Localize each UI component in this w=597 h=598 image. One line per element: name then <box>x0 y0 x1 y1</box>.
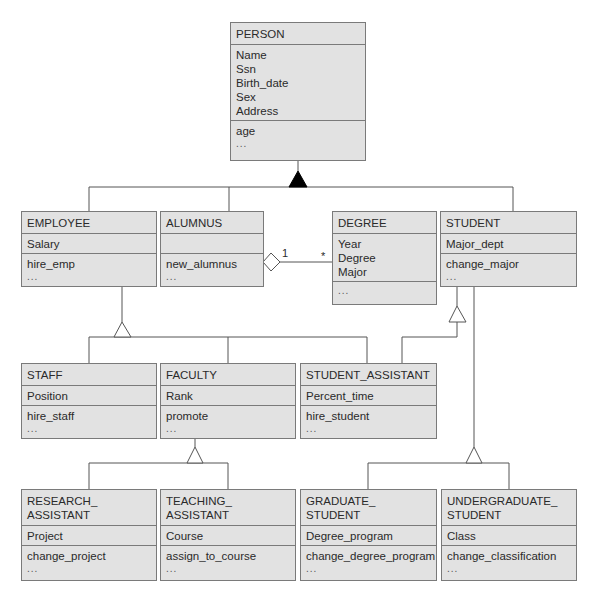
uml-diagram-canvas: 1 * PERSON Name Ssn Birth_date Sex Addre… <box>0 0 597 598</box>
attribute: Degree <box>338 251 431 265</box>
attribute: Name <box>236 48 360 62</box>
class-name: EMPLOYEE <box>22 212 156 233</box>
class-student: STUDENT Major_dept change_major ... <box>440 211 577 287</box>
attributes-section: Name Ssn Birth_date Sex Address <box>231 44 365 120</box>
operations-section: promote ... <box>161 405 295 437</box>
class-student-assistant: STUDENT_ASSISTANT Percent_time hire_stud… <box>300 363 437 439</box>
attributes-section: Rank <box>161 385 295 405</box>
attribute: Class <box>447 529 571 543</box>
attribute: Major_dept <box>446 237 571 251</box>
operations-section: new_alumnus ... <box>161 253 263 285</box>
class-name: DEGREE <box>333 212 436 233</box>
attribute: Major <box>338 265 431 279</box>
attributes-section: Project <box>22 525 156 545</box>
class-name: TEACHING_ ASSISTANT <box>161 490 295 525</box>
hollow-triangle-icon <box>187 447 203 463</box>
class-undergraduate-student: UNDERGRADUATE_ STUDENT Class change_clas… <box>441 489 577 581</box>
attributes-section <box>161 233 263 253</box>
operation: new_alumnus <box>166 257 258 271</box>
class-name: STUDENT <box>441 212 576 233</box>
ellipsis: ... <box>306 563 431 575</box>
operation: hire_staff <box>27 409 151 423</box>
multiplicity-one: 1 <box>282 247 288 259</box>
operations-section: change_major ... <box>441 253 576 285</box>
class-graduate-student: GRADUATE_ STUDENT Degree_program change_… <box>300 489 437 581</box>
operations-section: change_classification ... <box>442 545 576 577</box>
operations-section: change_degree_program ... <box>301 545 436 577</box>
class-person: PERSON Name Ssn Birth_date Sex Address a… <box>230 22 366 161</box>
class-name: GRADUATE_ STUDENT <box>301 490 436 525</box>
ellipsis: ... <box>166 271 258 283</box>
class-name: STUDENT_ASSISTANT <box>301 364 436 385</box>
attribute: Sex <box>236 90 360 104</box>
operations-section: hire_emp ... <box>22 253 156 285</box>
ellipsis: ... <box>27 423 151 435</box>
ellipsis: ... <box>236 138 360 150</box>
operation: change_classification <box>447 549 571 563</box>
attribute: Ssn <box>236 62 360 76</box>
multiplicity-many: * <box>321 250 325 262</box>
attributes-section: Salary <box>22 233 156 253</box>
class-name: UNDERGRADUATE_ STUDENT <box>442 490 576 525</box>
class-alumnus: ALUMNUS new_alumnus ... <box>160 211 264 287</box>
operations-section: change_project ... <box>22 545 156 577</box>
ellipsis: ... <box>27 563 151 575</box>
attribute: Birth_date <box>236 76 360 90</box>
operation: change_degree_program <box>306 549 431 563</box>
operations-section: age ... <box>231 120 365 152</box>
ellipsis: ... <box>446 271 571 283</box>
operation: hire_student <box>306 409 431 423</box>
attribute: Degree_program <box>306 529 431 543</box>
hollow-triangle-icon <box>114 322 131 337</box>
ellipsis: ... <box>166 563 290 575</box>
class-faculty: FACULTY Rank promote ... <box>160 363 296 439</box>
attribute: Course <box>166 529 290 543</box>
operation: change_project <box>27 549 151 563</box>
attribute: Address <box>236 104 360 118</box>
aggregation-diamond-icon <box>263 253 280 271</box>
operation: promote <box>166 409 290 423</box>
operations-section: hire_student ... <box>301 405 436 437</box>
operations-section: assign_to_course ... <box>161 545 295 577</box>
ellipsis: ... <box>447 563 571 575</box>
attributes-section: Percent_time <box>301 385 436 405</box>
class-name: PERSON <box>231 23 365 44</box>
operation: change_major <box>446 257 571 271</box>
hollow-triangle-icon <box>449 306 466 322</box>
hollow-triangle-icon <box>466 447 482 463</box>
attribute: Rank <box>166 389 290 403</box>
attributes-section: Course <box>161 525 295 545</box>
class-name: RESEARCH_ ASSISTANT <box>22 490 156 525</box>
attribute: Position <box>27 389 151 403</box>
ellipsis: ... <box>27 271 151 283</box>
attributes-section: Year Degree Major <box>333 233 436 281</box>
class-name: FACULTY <box>161 364 295 385</box>
class-employee: EMPLOYEE Salary hire_emp ... <box>21 211 157 287</box>
attributes-section: Degree_program <box>301 525 436 545</box>
attribute: Year <box>338 237 431 251</box>
attributes-section: Major_dept <box>441 233 576 253</box>
attributes-section: Position <box>22 385 156 405</box>
class-degree: DEGREE Year Degree Major ... <box>332 211 437 305</box>
class-name: ALUMNUS <box>161 212 263 233</box>
class-research-assistant: RESEARCH_ ASSISTANT Project change_proje… <box>21 489 157 581</box>
filled-triangle-icon <box>289 171 307 187</box>
attribute: Salary <box>27 237 151 251</box>
operations-section: ... <box>333 281 436 299</box>
operation: hire_emp <box>27 257 151 271</box>
attribute: Percent_time <box>306 389 431 403</box>
ellipsis: ... <box>338 285 431 297</box>
class-staff: STAFF Position hire_staff ... <box>21 363 157 439</box>
class-teaching-assistant: TEACHING_ ASSISTANT Course assign_to_cou… <box>160 489 296 581</box>
class-name: STAFF <box>22 364 156 385</box>
ellipsis: ... <box>306 423 431 435</box>
operation: age <box>236 124 360 138</box>
attribute: Project <box>27 529 151 543</box>
operations-section: hire_staff ... <box>22 405 156 437</box>
ellipsis: ... <box>166 423 290 435</box>
operation: assign_to_course <box>166 549 290 563</box>
attributes-section: Class <box>442 525 576 545</box>
